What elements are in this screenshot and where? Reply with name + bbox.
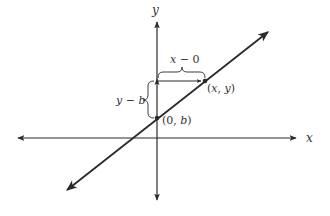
horizontal-brace <box>158 67 205 78</box>
x-axis-label: x <box>306 131 313 145</box>
slope-intercept-diagram: x y x − 0 y − b (0, b) (x, y) <box>0 0 330 216</box>
intercept-label: (0, b) <box>162 114 192 127</box>
y-axis-label: y <box>151 3 159 17</box>
rise-label: y − b <box>115 94 145 107</box>
intercept-point <box>155 116 160 121</box>
run-label: x − 0 <box>170 53 199 66</box>
graph-line <box>67 32 268 190</box>
general-point-label: (x, y) <box>207 82 235 95</box>
